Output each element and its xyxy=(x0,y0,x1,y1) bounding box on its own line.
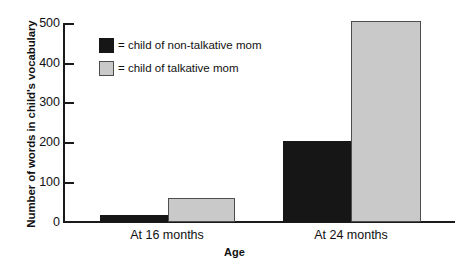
y-axis-title: Number of words in child's vocabulary xyxy=(25,19,37,229)
x-category-label-24-months: At 24 months xyxy=(291,228,411,242)
y-tick-label-100-wrap: 100 xyxy=(28,176,60,188)
y-tick-mark-100 xyxy=(65,182,74,184)
y-tick-label-500-wrap: 500 xyxy=(28,17,60,29)
bar-24-months-talkative xyxy=(351,21,421,222)
y-tick-mark-300 xyxy=(65,102,74,104)
bar-16-months-non-talkative xyxy=(100,215,168,222)
y-tick-label-0-wrap: 0 xyxy=(28,216,60,228)
x-axis-title: Age xyxy=(0,246,469,258)
y-tick-label-100: 100 xyxy=(30,176,60,188)
y-tick-label-300: 300 xyxy=(30,96,60,108)
y-tick-label-500: 500 xyxy=(30,17,60,29)
bar-24-months-non-talkative xyxy=(283,141,351,222)
legend-item-non-talkative: = child of non-talkative mom xyxy=(99,36,262,54)
y-tick-label-0: 0 xyxy=(30,216,60,228)
legend-label-non-talkative: = child of non-talkative mom xyxy=(118,39,262,51)
bar-chart-figure: Number of words in child's vocabulary 50… xyxy=(0,0,469,270)
bar-16-months-talkative xyxy=(168,198,235,222)
y-tick-label-200-wrap: 200 xyxy=(28,136,60,148)
legend-label-talkative: = child of talkative mom xyxy=(118,62,238,74)
y-tick-mark-400 xyxy=(65,63,74,65)
y-tick-label-200: 200 xyxy=(30,136,60,148)
legend-swatch-light-icon xyxy=(99,61,114,76)
x-category-label-16-months: At 16 months xyxy=(107,228,227,242)
y-tick-mark-200 xyxy=(65,142,74,144)
y-tick-mark-500 xyxy=(65,23,74,25)
y-tick-label-300-wrap: 300 xyxy=(28,96,60,108)
legend-swatch-dark-icon xyxy=(99,38,114,53)
y-tick-label-400-wrap: 400 xyxy=(28,57,60,69)
y-axis-line xyxy=(63,23,65,223)
legend: = child of non-talkative mom = child of … xyxy=(99,36,262,82)
y-tick-label-400: 400 xyxy=(30,57,60,69)
legend-item-talkative: = child of talkative mom xyxy=(99,59,262,77)
